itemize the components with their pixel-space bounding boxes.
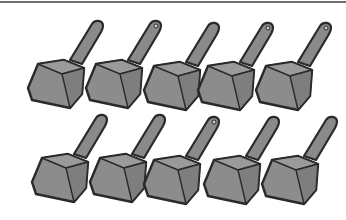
- scoops-illustration: [0, 0, 346, 220]
- scoop-row-2: [32, 115, 337, 204]
- scoop-row-1: [28, 21, 331, 110]
